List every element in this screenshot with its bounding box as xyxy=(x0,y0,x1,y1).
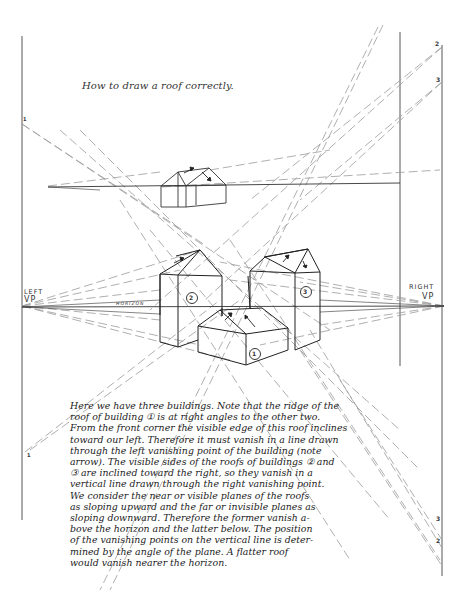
explanation-text: Here we have three buildings. Note that … xyxy=(70,400,348,568)
right-vp-label-line1: RIGHT xyxy=(409,283,434,292)
horizon-label: HORIZON xyxy=(116,301,144,306)
caption-line: would vanish nearer the horizon. xyxy=(70,557,348,568)
mark-right-bottom-3: 3 xyxy=(436,515,440,522)
caption-line: From the front corner the visible edge o… xyxy=(70,422,348,433)
building-1-number: 1 xyxy=(252,350,256,357)
mark-left-top-1: 1 xyxy=(23,116,26,122)
caption-line: We consider the near or visible planes o… xyxy=(70,490,348,501)
caption-line: toward our left. Therefore it must vanis… xyxy=(70,434,348,445)
left-vp-label-line2: VP xyxy=(24,296,43,304)
caption-line: Here we have three buildings. Note that … xyxy=(70,400,348,411)
building-2-number: 2 xyxy=(189,294,193,301)
caption-line: arrow). The visible sides of the roofs o… xyxy=(70,456,348,467)
right-vp-label-line2: VP xyxy=(409,292,434,301)
caption-line: as sloping upward and the far or invisib… xyxy=(70,501,348,512)
vp-wedges xyxy=(22,187,444,314)
caption-line: through the left vanishing point of the … xyxy=(70,445,348,456)
caption-line: mined by the angle of the plane. A flatt… xyxy=(70,546,348,557)
caption-line: bove the horizon and the latter below. T… xyxy=(70,523,348,534)
caption-line: of the vanishing points on the vertical … xyxy=(70,534,348,545)
caption-line: ③ are inclined toward the right, so they… xyxy=(70,467,348,478)
caption-line: roof of building ① is at right angles to… xyxy=(70,411,348,422)
upper-house xyxy=(161,168,226,207)
right-vp-label: RIGHT VP xyxy=(409,283,434,301)
mark-right-bottom-2: 2 xyxy=(436,537,440,544)
mark-left-bottom-1: 1 xyxy=(27,452,30,458)
diagram-title: How to draw a roof correctly. xyxy=(82,80,234,91)
mark-right-top-3: 3 xyxy=(436,76,440,83)
left-vp-label: LEFT VP xyxy=(24,288,43,304)
caption-line: sloping downward. Therefore the former v… xyxy=(70,512,348,523)
caption-line: vertical line drawn through the right va… xyxy=(70,478,348,489)
building-3-number: 3 xyxy=(303,288,307,295)
mark-right-top-2: 2 xyxy=(435,40,439,47)
